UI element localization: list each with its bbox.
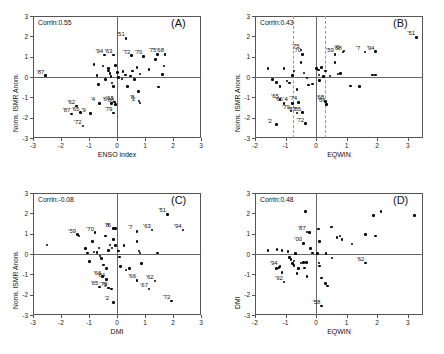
x-tick-label: 3	[399, 142, 417, 149]
data-point-label: '4	[91, 96, 95, 102]
x-tick-label: 3	[399, 319, 417, 326]
correlation-annotation: Corrln:0.43	[260, 19, 294, 26]
x-tick	[173, 315, 174, 318]
data-point	[413, 214, 416, 217]
data-point-label: '2	[267, 118, 271, 124]
data-point	[380, 210, 383, 213]
data-point-label: '9	[102, 282, 106, 288]
data-point	[117, 76, 120, 79]
x-tick-label: -1	[277, 319, 295, 326]
x-tick-label: 1	[338, 319, 356, 326]
y-tick	[252, 77, 255, 78]
data-point	[316, 252, 319, 255]
x-axis-title: EQWIN	[255, 328, 423, 335]
panel-c: -3-2-10123-3-2-10123DMINorm. ISMR Anom.C…	[0, 177, 222, 354]
x-tick	[201, 315, 202, 318]
data-point	[372, 214, 375, 217]
x-tick	[377, 315, 378, 318]
x-tick	[33, 315, 34, 318]
data-point-label: '63	[105, 48, 113, 54]
data-point	[325, 252, 328, 255]
x-tick	[347, 315, 348, 318]
data-point-label: '65	[72, 106, 80, 112]
data-point-label: '94	[270, 260, 278, 266]
data-point	[96, 251, 99, 254]
y-tick	[30, 315, 33, 316]
x-tick-label: -2	[246, 142, 264, 149]
panel-a: -3-2-10123-3-2-10123ENSO indexNorm. ISMR…	[0, 0, 222, 177]
correlation-annotation: Corrln:0.55	[38, 19, 72, 26]
y-axis-title: Norm. ISMR Anom.	[234, 73, 241, 132]
data-point	[44, 74, 47, 77]
x-tick-label: 0	[307, 142, 325, 149]
data-point-label: '7	[128, 224, 132, 230]
data-point	[374, 50, 377, 53]
y-tick	[252, 254, 255, 255]
data-point-label: '51	[158, 207, 166, 213]
data-point	[114, 244, 117, 247]
data-point	[336, 236, 339, 239]
x-tick	[117, 315, 118, 318]
data-point	[118, 256, 121, 259]
data-point	[281, 271, 284, 274]
data-point-label: '66	[128, 273, 136, 279]
y-tick	[30, 193, 33, 194]
data-point	[154, 58, 157, 61]
panel-id-label: (C)	[171, 194, 186, 206]
correlation-annotation: Corrln:-0.08	[38, 196, 74, 203]
data-point	[364, 233, 367, 236]
data-point	[109, 72, 112, 75]
zero-line-horizontal	[255, 77, 423, 78]
y-tick-label: 1	[16, 53, 28, 60]
y-axis-title: DMI	[234, 297, 241, 309]
y-tick-label: -3	[16, 312, 28, 319]
x-tick-label: 2	[164, 142, 182, 149]
data-point	[114, 64, 117, 67]
data-point	[308, 231, 311, 234]
data-point	[131, 70, 134, 73]
y-tick	[30, 16, 33, 17]
data-point	[91, 240, 94, 243]
y-tick-label: 3	[16, 190, 28, 197]
x-tick-label: 2	[164, 319, 182, 326]
x-tick	[89, 315, 90, 318]
x-tick	[408, 138, 409, 141]
data-point	[324, 70, 327, 73]
x-tick-label: 0	[108, 142, 126, 149]
data-point-label: '94	[174, 223, 182, 229]
data-point	[334, 53, 337, 56]
y-tick-label: -3	[16, 135, 28, 142]
data-point	[325, 103, 328, 106]
data-point	[275, 81, 278, 84]
data-point	[318, 79, 321, 82]
data-point	[415, 36, 418, 39]
data-point-label: '84	[97, 272, 105, 278]
data-point	[281, 249, 284, 252]
data-point	[133, 78, 136, 81]
data-point	[320, 305, 323, 308]
data-point-label: '68	[156, 47, 164, 53]
data-point	[142, 55, 145, 58]
y-tick	[252, 274, 255, 275]
y-tick	[30, 234, 33, 235]
x-tick-label: 1	[338, 142, 356, 149]
panel-b: -2-10123-3-2-10123EQWINNorm. ISMR Anom.C…	[222, 0, 444, 177]
y-tick	[30, 213, 33, 214]
data-point-label: '72	[123, 49, 131, 55]
data-point	[114, 227, 117, 230]
data-point	[110, 75, 113, 78]
data-point	[125, 37, 128, 40]
zero-line-horizontal	[255, 254, 423, 255]
data-point-label: '67	[140, 282, 148, 288]
x-tick-label: -1	[80, 142, 98, 149]
x-tick	[117, 138, 118, 141]
x-tick	[145, 138, 146, 141]
data-point	[294, 252, 297, 255]
x-tick	[286, 138, 287, 141]
x-tick-label: 1	[136, 319, 154, 326]
data-point	[124, 74, 127, 77]
x-tick	[316, 315, 317, 318]
x-tick	[377, 138, 378, 141]
x-tick-label: -2	[52, 142, 70, 149]
data-point	[311, 252, 314, 255]
